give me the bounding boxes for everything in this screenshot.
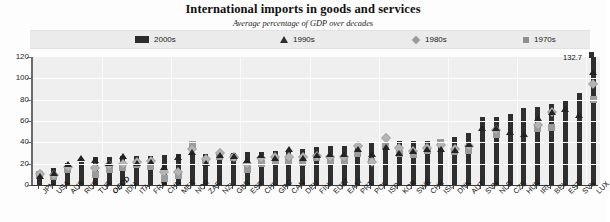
marker-1990s (133, 160, 141, 166)
marker-1990s (395, 150, 403, 156)
legend-label: 1970s (534, 31, 556, 48)
marker-1990s (423, 146, 431, 152)
marker-1990s (548, 109, 556, 115)
marker-1990s (506, 129, 514, 135)
y-tick-label: 40 (3, 138, 29, 146)
gridline-vertical (240, 57, 241, 185)
bar-2000s[interactable] (508, 114, 513, 185)
marker-1990s (478, 125, 486, 131)
chart-subtitle: Average percentage of GDP over decades (0, 19, 606, 28)
marker-1990s (77, 155, 85, 161)
x-tick-mark (176, 186, 177, 189)
gridline-vertical (310, 57, 311, 185)
marker-1990s (230, 153, 238, 159)
gridline-vertical (517, 57, 518, 185)
marker-1990s (91, 157, 99, 163)
gridline (33, 78, 600, 79)
x-tick-mark (93, 186, 94, 189)
x-tick-mark (135, 186, 136, 189)
marker-1990s (492, 125, 500, 131)
x-tick-mark (480, 186, 481, 189)
bar-swatch-icon (135, 36, 149, 43)
x-tick-mark (384, 186, 385, 189)
marker-1990s (340, 151, 348, 157)
legend-label: 1980s (425, 31, 447, 48)
x-tick-mark (245, 186, 246, 189)
x-tick-mark (162, 186, 163, 189)
marker-1990s (50, 170, 58, 176)
plot-area (31, 57, 600, 185)
x-axis: JPNUSAAUSRUSTUROECDIDNITAFRACHNMEXNORZAF… (31, 186, 598, 222)
marker-1990s (561, 106, 569, 112)
marker-1990s (285, 146, 293, 152)
marker-1990s (451, 147, 459, 153)
square-swatch-icon (523, 37, 529, 43)
marker-1990s (202, 160, 210, 166)
diamond-swatch-icon (412, 35, 420, 43)
marker-1990s (216, 152, 224, 158)
marker-1990s (36, 173, 44, 179)
chart-legend: 2000s 1990s 1980s 1970s (30, 30, 590, 49)
y-tick-label: 0 (3, 181, 29, 189)
y-tick-label: 100 (3, 74, 29, 82)
marker-1990s (520, 131, 528, 137)
marker-1990s (368, 151, 376, 157)
marker-1990s (313, 152, 321, 158)
marker-1990s (243, 157, 251, 163)
x-tick-mark (218, 186, 219, 189)
x-tick-mark (149, 186, 150, 189)
x-tick-mark (328, 186, 329, 189)
legend-item-1990s: 1990s (280, 31, 315, 48)
gridline (33, 142, 600, 143)
x-tick-mark (315, 186, 316, 189)
bar-2000s[interactable] (577, 93, 582, 185)
x-tick-mark (494, 186, 495, 189)
x-tick-mark (522, 186, 523, 189)
x-tick-mark (439, 186, 440, 189)
peak-value-label: 132.7 (563, 53, 582, 62)
marker-1990s (326, 151, 334, 157)
marker-1990s (589, 69, 597, 75)
y-tick-label: 20 (3, 160, 29, 168)
y-tick-label: 120 (3, 53, 29, 61)
x-tick-mark (107, 186, 108, 189)
marker-1990s (409, 148, 417, 154)
marker-1990s (271, 155, 279, 161)
x-tick-mark (287, 186, 288, 189)
x-tick-mark (425, 186, 426, 189)
x-tick-mark (397, 186, 398, 189)
x-tick-mark (121, 186, 122, 189)
x-tick-mark (563, 186, 564, 189)
marker-1970s (548, 124, 555, 131)
marker-1990s (188, 149, 196, 155)
x-tick-mark (38, 186, 39, 189)
x-tick-mark (356, 186, 357, 189)
legend-item-2000s: 2000s (135, 31, 176, 48)
x-tick-mark (273, 186, 274, 189)
gridline-vertical (171, 57, 172, 185)
legend-item-1970s: 1970s (523, 31, 556, 48)
x-tick-mark (467, 186, 468, 189)
x-tick-mark (259, 186, 260, 189)
marker-1990s (105, 160, 113, 166)
gridline (33, 100, 600, 101)
marker-1990s (382, 144, 390, 150)
y-tick-label: 60 (3, 117, 29, 125)
marker-1990s (354, 146, 362, 152)
marker-1990s (119, 153, 127, 159)
gridline-vertical (448, 57, 449, 185)
x-tick-mark (79, 186, 80, 189)
legend-label: 2000s (154, 31, 176, 48)
bar-2000s[interactable] (521, 108, 526, 185)
legend-label: 1990s (293, 31, 315, 48)
marker-1980s (381, 134, 389, 142)
triangle-swatch-icon (280, 36, 288, 43)
x-tick-mark (577, 186, 578, 189)
x-tick-mark (232, 186, 233, 189)
gridline (33, 121, 600, 122)
x-tick-mark (453, 186, 454, 189)
x-tick-mark (370, 186, 371, 189)
x-tick-mark (66, 186, 67, 189)
x-tick-mark (508, 186, 509, 189)
